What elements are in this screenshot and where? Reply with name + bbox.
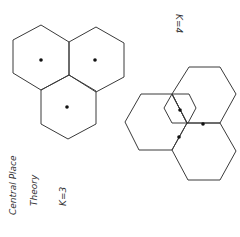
k4-hexagon-upper-right xyxy=(172,67,236,123)
k3-label: K=3 xyxy=(58,187,68,206)
k4-hexagon-left xyxy=(125,94,187,150)
k3-hexagon-top-left xyxy=(13,25,69,90)
k3-center-dot-2 xyxy=(93,58,97,62)
central-place-diagram: Central Place Theory K=3 K=4 xyxy=(0,0,240,237)
title-theory: Theory xyxy=(29,174,39,206)
k4-hexagon-group xyxy=(125,67,236,180)
k4-dot-2 xyxy=(201,122,205,126)
k4-hexagon-lower-right xyxy=(172,123,236,180)
k4-dot-3 xyxy=(177,135,181,139)
k4-label: K=4 xyxy=(174,14,184,33)
title-central-place: Central Place xyxy=(8,155,18,215)
k4-dot-1 xyxy=(178,108,182,112)
k3-center-dot-1 xyxy=(39,58,43,62)
k3-center-dot-3 xyxy=(65,105,69,109)
k3-hexagon-group xyxy=(13,25,124,139)
